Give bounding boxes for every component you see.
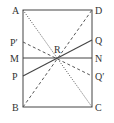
label-b: B: [12, 102, 19, 113]
geometry-diagram: A D P′ M P B Q N Q′ C R: [0, 0, 114, 123]
label-r: R: [54, 44, 61, 55]
label-a: A: [12, 5, 20, 16]
label-p: P: [12, 71, 18, 82]
label-q: Q: [95, 35, 103, 46]
label-c: C: [95, 102, 102, 113]
label-p-prime: P′: [10, 37, 18, 48]
label-n: N: [95, 53, 102, 64]
label-q-prime: Q′: [95, 71, 104, 82]
label-d: D: [95, 5, 102, 16]
label-m: M: [10, 53, 19, 64]
